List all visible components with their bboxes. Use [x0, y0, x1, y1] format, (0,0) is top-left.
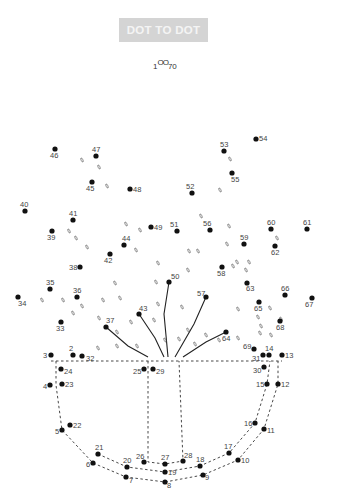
dot-51[interactable]: 51: [170, 220, 180, 234]
dot-marker[interactable]: [260, 352, 265, 357]
dot-16[interactable]: 16: [244, 419, 258, 428]
dot-47[interactable]: 47: [92, 145, 100, 159]
dot-marker[interactable]: [58, 366, 63, 371]
dot-27[interactable]: 27: [161, 453, 169, 467]
dot-marker[interactable]: [264, 381, 269, 386]
dot-layer[interactable]: 2345678910111213141516171819202122232425…: [15, 134, 314, 490]
dot-28[interactable]: 28: [180, 451, 192, 464]
dot-marker[interactable]: [279, 352, 284, 357]
dot-marker[interactable]: [261, 426, 266, 431]
dot-53[interactable]: 53: [220, 140, 228, 154]
dot-44[interactable]: 44: [121, 234, 130, 248]
dot-54[interactable]: 54: [253, 134, 267, 143]
dot-marker[interactable]: [77, 264, 82, 269]
dot-32[interactable]: 32: [79, 353, 94, 363]
dot-marker[interactable]: [123, 474, 128, 479]
dot-marker[interactable]: [141, 366, 146, 371]
dot-marker[interactable]: [253, 136, 258, 141]
dot-marker[interactable]: [74, 294, 79, 299]
dot-marker[interactable]: [70, 352, 75, 357]
dot-48[interactable]: 48: [127, 185, 141, 194]
dot-12[interactable]: 12: [275, 380, 289, 389]
dot-marker[interactable]: [207, 227, 212, 232]
dot-marker[interactable]: [70, 217, 75, 222]
dot-50[interactable]: 50: [166, 272, 179, 285]
dot-marker[interactable]: [47, 286, 52, 291]
dot-marker[interactable]: [59, 381, 64, 386]
dot-marker[interactable]: [162, 469, 167, 474]
dot-marker[interactable]: [93, 153, 98, 158]
dot-43[interactable]: 43: [136, 304, 147, 317]
dot-marker[interactable]: [67, 422, 72, 427]
dot-marker[interactable]: [47, 382, 52, 387]
dot-marker[interactable]: [174, 228, 179, 233]
dot-19[interactable]: 19: [162, 468, 176, 477]
dot-marker[interactable]: [127, 186, 132, 191]
dot-69[interactable]: 69: [243, 342, 257, 352]
dot-marker[interactable]: [95, 451, 100, 456]
dot-64[interactable]: 64: [222, 329, 230, 343]
dot-4[interactable]: 4: [43, 382, 53, 391]
dot-23[interactable]: 23: [59, 380, 73, 389]
dot-marker[interactable]: [121, 242, 126, 247]
dot-42[interactable]: 42: [104, 251, 113, 265]
dot-49[interactable]: 49: [148, 223, 162, 232]
dot-25[interactable]: 25: [133, 366, 147, 376]
dot-57[interactable]: 57: [197, 289, 209, 300]
dot-marker[interactable]: [197, 463, 202, 468]
dot-26[interactable]: 26: [136, 452, 147, 465]
dot-marker[interactable]: [59, 427, 64, 432]
dot-marker[interactable]: [221, 148, 226, 153]
dot-5[interactable]: 5: [55, 427, 65, 436]
dot-21[interactable]: 21: [95, 443, 103, 457]
dot-marker[interactable]: [103, 324, 108, 329]
dot-52[interactable]: 52: [186, 182, 195, 196]
dot-33[interactable]: 33: [56, 319, 64, 333]
dot-30[interactable]: 30: [253, 364, 267, 375]
dot-58[interactable]: 58: [217, 264, 225, 278]
dot-17[interactable]: 17: [224, 442, 232, 456]
dot-marker[interactable]: [235, 457, 240, 462]
dot-41[interactable]: 41: [69, 209, 77, 223]
dot-14[interactable]: 14: [265, 344, 273, 358]
dot-46[interactable]: 46: [50, 146, 58, 160]
dot-3[interactable]: 3: [43, 351, 54, 360]
dot-marker[interactable]: [148, 224, 153, 229]
dot-37[interactable]: 37: [103, 316, 114, 330]
dot-marker[interactable]: [304, 226, 309, 231]
dot-60[interactable]: 60: [267, 218, 275, 232]
dot-marker[interactable]: [282, 292, 287, 297]
dot-66[interactable]: 66: [281, 284, 289, 298]
dot-56[interactable]: 56: [203, 219, 213, 233]
dot-marker[interactable]: [266, 352, 271, 357]
dot-marker[interactable]: [268, 226, 273, 231]
dot-11[interactable]: 11: [261, 426, 274, 435]
puzzle-canvas[interactable]: 2345678910111213141516171819202122232425…: [0, 0, 337, 497]
dot-marker[interactable]: [275, 381, 280, 386]
dot-65[interactable]: 65: [254, 299, 262, 313]
dot-31[interactable]: 31: [252, 352, 266, 363]
dot-marker[interactable]: [22, 208, 27, 213]
dot-6[interactable]: 6: [86, 460, 96, 469]
dot-38[interactable]: 38: [69, 263, 83, 272]
dot-marker[interactable]: [162, 461, 167, 466]
dot-68[interactable]: 68: [276, 318, 284, 332]
dot-20[interactable]: 20: [123, 456, 131, 470]
dot-10[interactable]: 10: [235, 456, 249, 465]
dot-61[interactable]: 61: [303, 218, 311, 232]
dot-62[interactable]: 62: [271, 243, 279, 257]
dot-67[interactable]: 67: [305, 295, 315, 309]
dot-marker[interactable]: [79, 353, 84, 358]
dot-marker[interactable]: [241, 241, 246, 246]
dot-marker[interactable]: [252, 420, 257, 425]
dot-marker[interactable]: [189, 190, 194, 195]
dot-39[interactable]: 39: [47, 228, 55, 242]
dot-40[interactable]: 40: [20, 200, 28, 214]
dot-9[interactable]: 9: [200, 472, 209, 482]
dot-34[interactable]: 34: [15, 294, 26, 308]
dot-marker[interactable]: [226, 450, 231, 455]
dot-22[interactable]: 22: [67, 421, 81, 430]
dot-marker[interactable]: [251, 346, 256, 351]
dot-59[interactable]: 59: [240, 233, 248, 247]
dot-2[interactable]: 2: [69, 344, 76, 358]
